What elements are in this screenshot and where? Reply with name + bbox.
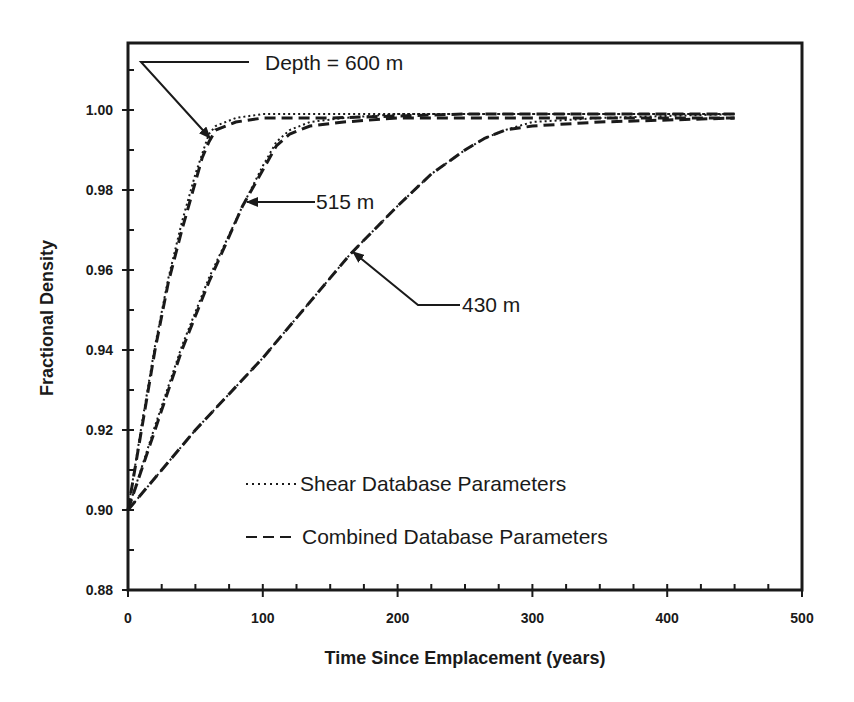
y-tick-label: 0.92 bbox=[86, 422, 113, 438]
y-axis-tick-labels: 0.88 0.90 0.92 0.94 0.96 0.98 1.00 bbox=[86, 102, 113, 598]
y-tick-label: 0.98 bbox=[86, 182, 113, 198]
leader-line-600m bbox=[141, 62, 249, 138]
legend: Shear Database Parameters Combined Datab… bbox=[246, 472, 608, 548]
annotation-515m: 515 m bbox=[247, 190, 374, 213]
curve-600m-shear bbox=[128, 114, 735, 510]
x-tick-label: 500 bbox=[790, 610, 814, 626]
x-axis-tick-labels: 0 100 200 300 400 500 bbox=[124, 610, 814, 626]
y-tick-label: 0.94 bbox=[86, 342, 113, 358]
y-tick-label: 1.00 bbox=[86, 102, 113, 118]
y-tick-label: 0.90 bbox=[86, 502, 113, 518]
curve-515m-combined bbox=[128, 118, 735, 510]
x-tick-label: 400 bbox=[656, 610, 680, 626]
series-515m bbox=[128, 114, 735, 510]
annotation-430m: 430 m bbox=[353, 252, 520, 316]
annotation-600m: Depth = 600 m bbox=[141, 51, 403, 138]
curve-430m-shear bbox=[128, 114, 735, 510]
annotation-label-515m: 515 m bbox=[316, 190, 374, 213]
legend-label-combined: Combined Database Parameters bbox=[302, 525, 608, 548]
plot-frame bbox=[128, 43, 802, 590]
x-tick-label: 200 bbox=[386, 610, 410, 626]
x-tick-label: 100 bbox=[251, 610, 275, 626]
curve-515m-shear bbox=[128, 114, 735, 510]
legend-label-shear: Shear Database Parameters bbox=[300, 472, 566, 495]
y-tick-label: 0.88 bbox=[86, 582, 113, 598]
curve-600m-combined bbox=[128, 114, 735, 510]
series-600m bbox=[128, 114, 735, 510]
annotation-label-600m: Depth = 600 m bbox=[265, 51, 403, 74]
x-tick-label: 300 bbox=[521, 610, 545, 626]
series-430m bbox=[128, 114, 735, 510]
annotation-label-430m: 430 m bbox=[462, 293, 520, 316]
leader-line-430m bbox=[353, 252, 460, 305]
x-tick-label: 0 bbox=[124, 610, 132, 626]
curve-430m-combined bbox=[128, 118, 735, 510]
y-axis-title: Fractional Density bbox=[37, 240, 57, 396]
chart-canvas: 0.88 0.90 0.92 0.94 0.96 0.98 1.00 0 100… bbox=[0, 0, 854, 702]
y-tick-label: 0.96 bbox=[86, 262, 113, 278]
x-axis-title: Time Since Emplacement (years) bbox=[325, 648, 606, 668]
